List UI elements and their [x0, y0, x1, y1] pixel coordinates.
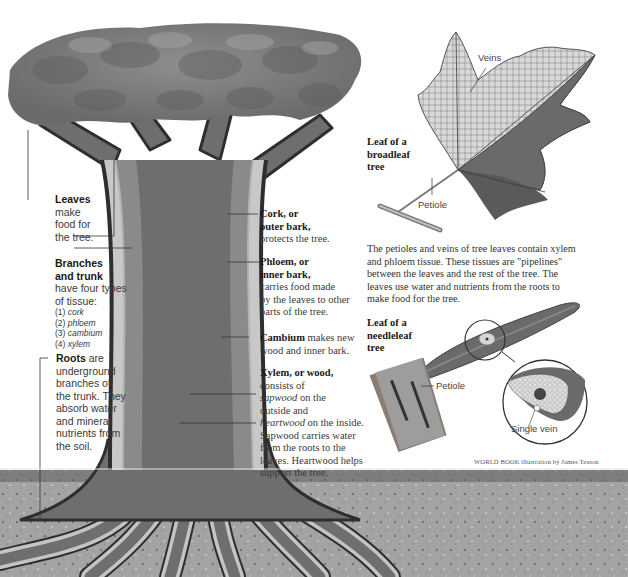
leaves-text-2: food for — [55, 218, 94, 231]
leaves-label: Leaves make food for the tree. — [55, 193, 94, 243]
leaves-text-1: make — [55, 206, 94, 219]
leaves-text-3: the tree. — [55, 231, 94, 244]
tissue-item-2: (2) phloem — [55, 318, 127, 329]
broadleaf-petiole-label: Petiole — [418, 199, 447, 210]
branches-text-1: have four types — [55, 282, 127, 295]
tissue-num: (2) — [55, 318, 65, 328]
branches-title-1: Branches — [55, 257, 127, 270]
xylem-sapwood-line: sapwood on the — [260, 392, 364, 405]
heartwood-term: heartwood — [260, 417, 305, 428]
tissue-num: (4) — [55, 339, 65, 349]
paragraph-line: make food for the tree. — [367, 293, 576, 306]
phloem-text: by the leaves to other — [260, 294, 350, 307]
phloem-title-1: Phloem, or — [260, 256, 350, 269]
paragraph-line: between the leaves and the rest of the t… — [367, 268, 576, 281]
xylem-text: Sapwood carries water — [260, 430, 364, 443]
paragraph-line: leaves use water and nutrients from the … — [367, 281, 576, 294]
xylem-heartwood-line: heartwood on the inside. — [260, 417, 364, 430]
broadleaf-title-2: broadleaf — [367, 149, 410, 162]
roots-text: and mineral — [56, 415, 126, 428]
cork-label: Cork, or outer bark, protects the tree. — [260, 208, 330, 246]
roots-text: underground — [56, 365, 126, 378]
phloem-text: parts of the tree. — [260, 306, 350, 319]
broadleaf-title-1: Leaf of a — [367, 136, 410, 149]
cork-title-2: outer bark, — [260, 221, 330, 234]
veins-label: Veins — [478, 52, 501, 63]
branches-text-2: of tissue: — [55, 295, 127, 308]
single-vein-label: Single vein — [511, 423, 557, 434]
cork-text: protects the tree. — [260, 233, 330, 246]
tissue-item-1: (1) cork — [55, 307, 127, 318]
roots-title: Roots — [56, 352, 86, 364]
tissue-term: cork — [68, 307, 84, 317]
roots-text: absorb water — [56, 402, 126, 415]
cambium-line-1: Cambium makes new — [260, 332, 355, 345]
xylem-text: consists of — [260, 380, 364, 393]
canopy — [8, 23, 361, 126]
broadleaf-title: Leaf of a broadleaf tree — [367, 136, 410, 174]
roots-text: nutrients from — [56, 427, 126, 440]
xylem-text: outside and — [260, 405, 364, 418]
needleleaf-title-2: needleleaf — [367, 330, 412, 343]
xylem-text: from the roots to the — [260, 442, 364, 455]
cork-title-1: Cork, or — [260, 208, 330, 221]
phloem-label: Phloem, or inner bark, carries food made… — [260, 256, 350, 319]
xylem-text: support the tree. — [260, 467, 364, 480]
needleleaf-petiole-label: Petiole — [436, 380, 465, 391]
cambium-label: Cambium makes new wood and inner bark. — [260, 332, 355, 357]
tissue-paragraph: The petioles and veins of tree leaves co… — [367, 243, 576, 306]
phloem-text: carries food made — [260, 281, 350, 294]
tissue-item-4: (4) xylem — [55, 339, 127, 350]
cambium-text: wood and inner bark. — [260, 345, 355, 358]
tissue-term: cambium — [68, 328, 102, 338]
roots-label: Roots are underground branches of the tr… — [56, 352, 126, 452]
sapwood-term: sapwood — [260, 392, 297, 403]
roots-text: the soil. — [56, 440, 126, 453]
tissue-item-3: (3) cambium — [55, 328, 127, 339]
needleleaf-title-1: Leaf of a — [367, 317, 412, 330]
paragraph-line: and phloem tissue. These tissues are "pi… — [367, 256, 576, 269]
branches-title-2: and trunk — [55, 270, 127, 283]
roots-line-1: Roots are — [56, 352, 126, 365]
roots-text: are — [86, 352, 104, 364]
tissue-term: phloem — [68, 318, 96, 328]
paragraph-line: The petioles and veins of tree leaves co… — [367, 243, 576, 256]
needleleaf-title-3: tree — [367, 342, 412, 355]
broadleaf-title-3: tree — [367, 161, 410, 174]
phloem-title-2: inner bark, — [260, 269, 350, 282]
leaves-title: Leaves — [55, 193, 94, 206]
branches-label: Branches and trunk have four types of ti… — [55, 257, 127, 349]
roots-text: the trunk. They — [56, 390, 126, 403]
tissue-num: (1) — [55, 307, 65, 317]
illustration-credit: WORLD BOOK illustration by James Teason — [474, 458, 599, 465]
roots-text: branches of — [56, 377, 126, 390]
xylem-title: Xylem, or wood, — [260, 367, 364, 380]
xylem-text: on the — [297, 392, 326, 403]
tissue-term: xylem — [68, 339, 90, 349]
needleleaf-title: Leaf of a needleleaf tree — [367, 317, 412, 355]
xylem-text: leaves. Heartwood helps — [260, 455, 364, 468]
cambium-title: Cambium — [260, 332, 305, 343]
xylem-label: Xylem, or wood, consists of sapwood on t… — [260, 367, 364, 480]
tissue-num: (3) — [55, 328, 65, 338]
xylem-text: on the inside. — [305, 417, 364, 428]
cambium-text: makes new — [305, 332, 355, 343]
